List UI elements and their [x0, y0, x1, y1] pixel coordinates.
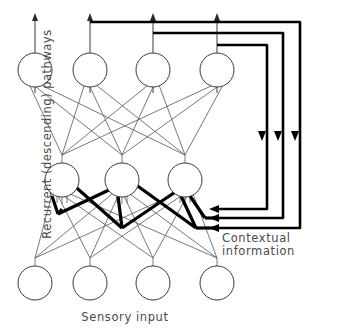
input-node-2[interactable]: [73, 266, 107, 300]
hidden-to-input-connections: [35, 194, 217, 266]
input-node-1[interactable]: [18, 266, 52, 300]
neural-network-diagram: Sensory input Contextual information Rec…: [0, 0, 341, 334]
input-node-4[interactable]: [200, 266, 234, 300]
output-node-4[interactable]: [200, 53, 234, 87]
sensory-input-label: Sensory input: [0, 310, 250, 324]
axon-arrowhead-3: [150, 13, 156, 21]
descend-arrow-inner: [258, 131, 266, 141]
axon-arrowhead-1: [32, 13, 38, 21]
descending-direction-arrows: [258, 131, 299, 141]
descend-arrow-middle: [274, 131, 282, 141]
axon-arrowhead-4: [214, 13, 220, 21]
output-node-2[interactable]: [73, 53, 107, 87]
input-layer-nodes: [18, 266, 234, 300]
recurrent-pathways-label: Recurrent (descending) pathways: [40, 9, 54, 259]
output-node-3[interactable]: [136, 53, 170, 87]
descend-arrow-outer: [291, 131, 299, 141]
input-node-3[interactable]: [136, 266, 170, 300]
hidden-layer-nodes: [45, 163, 202, 197]
output-to-hidden-connections: [30, 85, 223, 163]
recurrent-loop-3-arrowhead: [209, 205, 219, 213]
hidden-node-3[interactable]: [168, 163, 202, 197]
axon-arrowhead-2: [87, 13, 93, 21]
contextual-information-label: Contextual information: [222, 232, 295, 258]
hidden-node-2[interactable]: [105, 163, 139, 197]
contextual-label-line-2: information: [222, 245, 295, 258]
